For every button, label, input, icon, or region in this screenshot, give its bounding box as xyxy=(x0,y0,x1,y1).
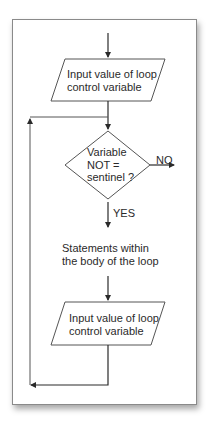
loop-back-bottom xyxy=(31,345,108,385)
input2-label: Input value of loop control variable xyxy=(69,312,159,337)
flowchart-canvas xyxy=(0,0,207,429)
no-label: NO xyxy=(156,154,173,167)
decision-label: Variable NOT = sentinel ? xyxy=(87,146,134,184)
yes-label: YES xyxy=(113,207,135,220)
input1-label: Input value of loop control variable xyxy=(67,68,157,93)
body-statements-label: Statements within the body of the loop xyxy=(62,242,159,267)
